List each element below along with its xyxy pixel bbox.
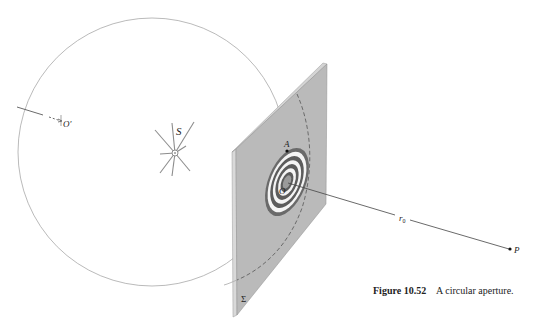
label-a: A <box>283 139 290 149</box>
circular-aperture-diagram: O′ S A O <box>0 0 556 326</box>
label-o: O <box>279 186 286 196</box>
point-a-marker <box>285 149 288 152</box>
figure-number: Figure 10.52 <box>373 285 426 296</box>
label-screen: Σ <box>241 294 246 304</box>
label-r0: r0 <box>399 213 406 224</box>
sphere-axis-marker <box>17 107 62 126</box>
figure-caption-text: A circular aperture. <box>436 285 513 296</box>
figure-caption: Figure 10.52 A circular aperture. <box>373 285 514 296</box>
label-source: S <box>176 125 182 137</box>
label-p: P <box>513 245 520 255</box>
point-source-icon <box>155 122 194 176</box>
label-o-prime: O′ <box>63 119 72 129</box>
point-p-marker <box>508 247 511 250</box>
